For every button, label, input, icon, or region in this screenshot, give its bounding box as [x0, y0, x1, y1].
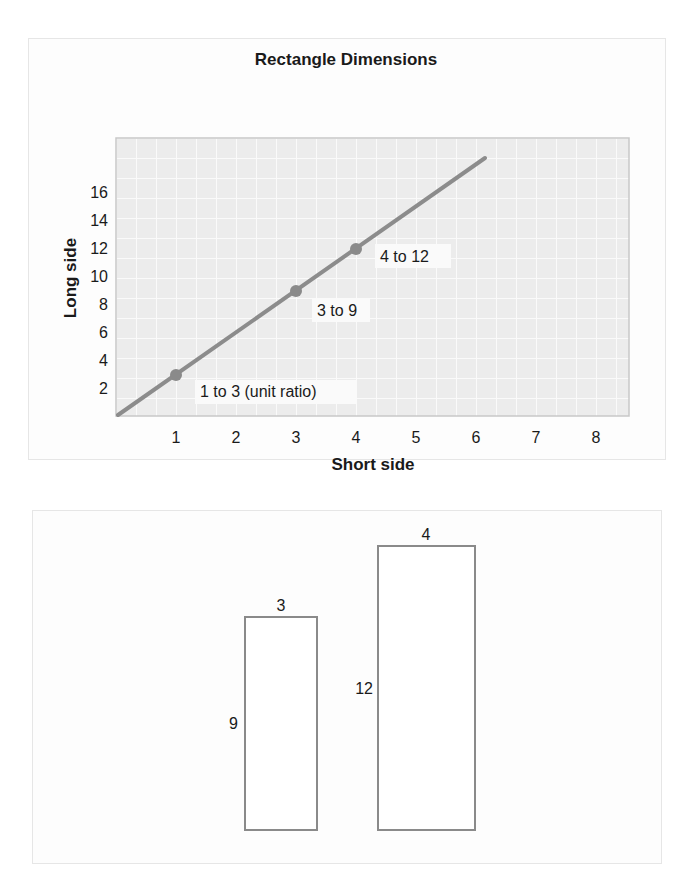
plot-area — [116, 138, 629, 416]
annotation-4-to-12: 4 to 12 — [380, 248, 429, 265]
data-point — [170, 369, 182, 381]
y-tick: 12 — [90, 240, 108, 257]
x-tick: 4 — [352, 429, 361, 446]
y-tick: 16 — [90, 184, 108, 201]
x-axis-label: Short side — [331, 455, 414, 474]
x-tick: 1 — [172, 429, 181, 446]
rectangle-4x12: 4 12 — [355, 526, 475, 830]
y-tick: 8 — [99, 296, 108, 313]
y-axis-label: Long side — [61, 238, 80, 318]
x-tick: 5 — [412, 429, 421, 446]
rectangle-height-label: 12 — [355, 680, 373, 697]
x-tick: 3 — [292, 429, 301, 446]
data-point — [350, 243, 362, 255]
x-tick: 2 — [232, 429, 241, 446]
annotation-1-to-3: 1 to 3 (unit ratio) — [200, 383, 317, 400]
rectangle-height-label: 9 — [229, 715, 238, 732]
rectangle-3x9: 3 9 — [229, 597, 317, 830]
y-tick: 4 — [99, 352, 108, 369]
data-point — [290, 285, 302, 297]
figure-canvas: 2 4 6 8 10 12 14 16 Long side 1 2 3 4 5 … — [0, 0, 692, 883]
x-axis-ticks: 1 2 3 4 5 6 7 8 — [172, 429, 601, 446]
y-tick: 2 — [99, 380, 108, 397]
x-tick: 6 — [472, 429, 481, 446]
x-tick: 7 — [532, 429, 541, 446]
rectangle-width-label: 3 — [277, 597, 286, 614]
x-tick: 8 — [592, 429, 601, 446]
y-tick: 6 — [99, 324, 108, 341]
y-axis-ticks: 2 4 6 8 10 12 14 16 — [90, 184, 108, 397]
rectangle-shape — [245, 617, 317, 830]
rectangle-width-label: 4 — [422, 526, 431, 543]
annotation-3-to-9: 3 to 9 — [317, 302, 357, 319]
y-tick: 10 — [90, 268, 108, 285]
plot-background — [116, 138, 629, 416]
y-tick: 14 — [90, 212, 108, 229]
rectangle-shape — [378, 546, 475, 830]
